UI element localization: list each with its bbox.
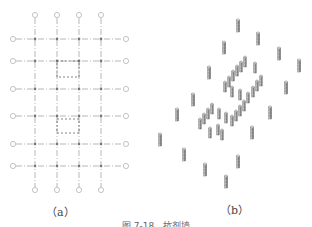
- axis-bubble-icon: [123, 113, 128, 118]
- axis-bubble-icon: [10, 113, 15, 118]
- axis-bubble-icon: [10, 36, 15, 41]
- column-node: [100, 115, 102, 117]
- axis-bubble-icon: [123, 36, 128, 41]
- column-node: [34, 165, 36, 167]
- column-node: [34, 115, 36, 117]
- core-wall-outline: [57, 119, 79, 133]
- column-node: [100, 88, 102, 90]
- panel-b-label: （b）: [220, 201, 249, 217]
- axis-bubble-icon: [32, 187, 37, 192]
- axis-bubble-icon: [32, 12, 37, 17]
- axis-bubble-icon: [54, 187, 59, 192]
- axis-bubble-icon: [123, 163, 128, 168]
- column-node: [78, 165, 80, 167]
- column-node: [56, 38, 58, 40]
- axis-bubble-icon: [98, 12, 103, 17]
- column-node: [56, 88, 58, 90]
- panel-a-label: （a）: [46, 203, 75, 219]
- axis-bubble-icon: [123, 58, 128, 63]
- column-node: [34, 60, 36, 62]
- axis-bubble-icon: [98, 187, 103, 192]
- column-node: [78, 38, 80, 40]
- column-node: [100, 165, 102, 167]
- core-wall-outline: [57, 61, 79, 77]
- axis-bubble-icon: [76, 187, 81, 192]
- column-node: [56, 143, 58, 145]
- column-node: [100, 60, 102, 62]
- figure-caption: 图 7-18 抗剂墙: [122, 219, 190, 227]
- column-node: [78, 115, 80, 117]
- axis-bubble-icon: [10, 141, 15, 146]
- column-node: [34, 88, 36, 90]
- figure-canvas: [0, 0, 312, 227]
- axis-bubble-icon: [10, 86, 15, 91]
- axis-bubble-icon: [10, 58, 15, 63]
- column-node: [56, 115, 58, 117]
- column-node: [34, 38, 36, 40]
- figure: （a） （b） 图 7-18 抗剂墙: [0, 0, 312, 227]
- column-node: [100, 38, 102, 40]
- column-node: [78, 88, 80, 90]
- column-node: [34, 143, 36, 145]
- axis-bubble-icon: [54, 12, 59, 17]
- axis-bubble-icon: [10, 163, 15, 168]
- axis-bubble-icon: [123, 86, 128, 91]
- axis-bubble-icon: [76, 12, 81, 17]
- column-node: [56, 165, 58, 167]
- column-node: [100, 143, 102, 145]
- column-node: [78, 143, 80, 145]
- axis-bubble-icon: [123, 141, 128, 146]
